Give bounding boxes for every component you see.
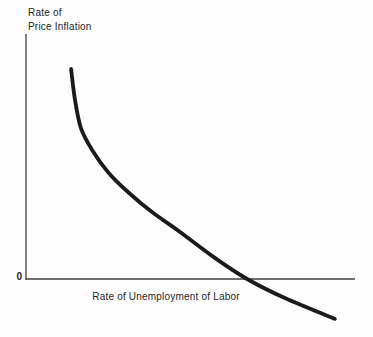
y-axis-label: Rate of Price Inflation (28, 6, 92, 34)
origin-tick-label: 0 (8, 271, 22, 282)
phillips-curve (71, 69, 335, 319)
phillips-curve-figure: Rate of Price Inflation 0 Rate of Unempl… (0, 0, 373, 337)
chart-canvas (0, 0, 373, 337)
y-axis-label-line1: Rate of (28, 6, 92, 20)
x-axis-label: Rate of Unemployment of Labor (92, 291, 240, 302)
y-axis-label-line2: Price Inflation (28, 20, 92, 34)
